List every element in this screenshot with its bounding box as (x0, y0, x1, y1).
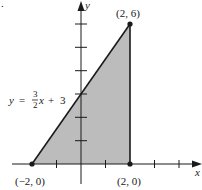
equation-numerator: 3 (33, 89, 38, 99)
y-axis-arrow-icon (78, 1, 85, 11)
equation-equals: = (19, 94, 25, 106)
equation-variable: x (38, 94, 44, 106)
corner-mark: . (1, 0, 4, 9)
equation-lhs: y (8, 94, 14, 106)
x-axis-label: x (194, 166, 200, 178)
equation-label: y = 3 2 x + 3 (8, 89, 66, 110)
equation-plus: + (48, 94, 54, 106)
y-axis-label: y (84, 0, 90, 11)
point-2-0 (127, 161, 132, 166)
point-label-2-0: (2, 0) (117, 175, 141, 188)
point-label-2-6: (2, 6) (116, 7, 140, 20)
point-neg2-0 (29, 161, 34, 166)
area-figure: . y x (0, 0, 202, 190)
point-label-neg2-0: (−2, 0) (15, 175, 45, 188)
equation-denominator: 2 (33, 100, 38, 110)
point-2-6 (127, 21, 132, 26)
equation-constant: 3 (60, 94, 66, 106)
